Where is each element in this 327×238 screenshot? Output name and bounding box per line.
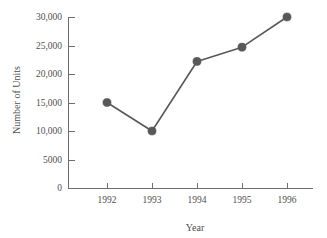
x-tick-label: 1992: [98, 195, 117, 205]
x-axis-ticks: 19921993199419951996: [98, 183, 297, 206]
data-series-group: [103, 13, 291, 135]
y-axis-title: Number of Units: [11, 66, 22, 134]
y-tick-label: 20,000: [36, 69, 62, 79]
series-line: [107, 17, 287, 131]
y-tick-label: 30,000: [36, 12, 62, 22]
data-point-marker[interactable]: [238, 43, 246, 51]
chart-canvas: 0500010,00015,00020,00025,00030,000 1992…: [0, 0, 327, 238]
y-tick-label: 10,000: [36, 126, 62, 136]
y-tick-label: 5000: [43, 155, 62, 165]
line-chart: 0500010,00015,00020,00025,00030,000 1992…: [0, 0, 327, 238]
x-tick-label: 1995: [233, 195, 252, 205]
x-tick-label: 1994: [188, 195, 207, 205]
data-point-marker[interactable]: [193, 57, 201, 65]
data-point-marker[interactable]: [283, 13, 291, 21]
y-tick-label: 0: [57, 183, 62, 193]
y-tick-label: 25,000: [36, 41, 62, 51]
y-tick-label: 15,000: [36, 98, 62, 108]
x-axis-title: Year: [186, 222, 205, 233]
data-point-marker[interactable]: [148, 127, 156, 135]
data-point-marker[interactable]: [103, 98, 111, 106]
x-tick-label: 1993: [143, 195, 162, 205]
x-tick-label: 1996: [278, 195, 297, 205]
